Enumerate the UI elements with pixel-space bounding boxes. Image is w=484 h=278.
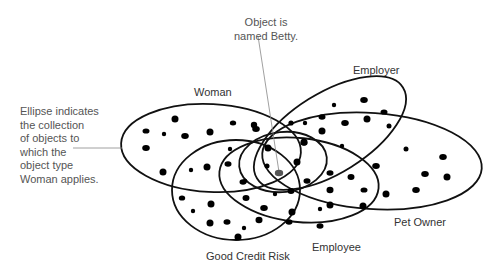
- label-woman: Woman: [194, 86, 232, 99]
- venn-diagram: Woman Employer Pet Owner Good Credit Ris…: [0, 0, 484, 278]
- betty-annotation: Object is named Betty.: [234, 16, 298, 43]
- ellipse-annotation-line-3: of objects to: [20, 132, 99, 146]
- ellipse-annotation-line-6: Woman applies.: [20, 173, 99, 187]
- ellipse-annotation-line-4: which the: [20, 146, 99, 160]
- ellipse-annotation-line-1: Ellipse indicates: [20, 105, 99, 119]
- betty-annotation-line-2: named Betty.: [234, 30, 298, 44]
- ellipse-annotation: Ellipse indicates the collection of obje…: [20, 105, 99, 186]
- label-employer: Employer: [353, 64, 399, 77]
- betty-annotation-line-1: Object is: [234, 16, 298, 30]
- label-employee: Employee: [312, 241, 361, 254]
- label-good-credit-risk: Good Credit Risk: [206, 250, 290, 263]
- label-pet-owner: Pet Owner: [394, 216, 446, 229]
- ellipse-annotation-line-2: the collection: [20, 119, 99, 133]
- betty-leader-line: [258, 36, 279, 172]
- betty-object-dot: [275, 170, 283, 177]
- ellipse-annotation-line-5: object type: [20, 159, 99, 173]
